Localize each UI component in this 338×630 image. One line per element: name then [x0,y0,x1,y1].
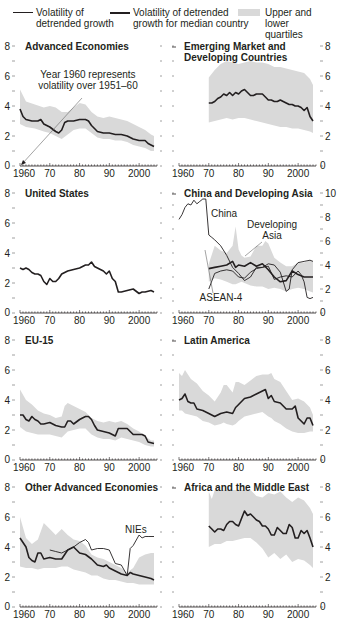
y-tick-label: 6 [325,512,331,523]
y-tick-label: 0 [320,307,326,318]
y-tick-label: 8 [325,41,331,52]
x-tick-label: 90 [104,168,116,179]
quartile-band [209,227,313,293]
y-tick-label: 2 [4,425,10,436]
y-tick-label: 4 [325,260,331,271]
y-tick-label: 6 [4,365,10,376]
y-tick-label: 4 [4,542,10,553]
x-tick-label: 80 [74,315,86,326]
x-tick-label: 1960 [172,315,195,326]
x-tick-label: 1960 [13,462,36,473]
x-tick-label: 70 [44,462,56,473]
quartile-band [20,390,154,447]
x-tick-label: 2000 [128,168,151,179]
x-tick-label: 90 [104,462,116,473]
panel-title: Latin America [184,335,250,346]
chart-panel: 1960708090200024680Latin America [172,335,331,474]
x-tick-label: 70 [203,462,215,473]
x-tick-label: 80 [233,462,245,473]
y-tick-label: 2 [325,425,331,436]
x-tick-label: 2000 [128,315,151,326]
panel-title: Africa and the Middle East [184,482,310,493]
y-tick-label: 0 [320,160,326,171]
x-tick-label: 1960 [172,609,195,620]
y-tick-label: 2 [325,572,331,583]
x-tick-label: 70 [44,168,56,179]
panel-title: Other Advanced Economies [25,482,158,493]
series-label: ASEAN-4 [200,292,243,303]
chart-panel: 1960708090200024680United States [4,188,162,327]
series-label: Developing [247,219,297,230]
x-tick-label: 90 [104,315,116,326]
x-tick-label: 70 [203,609,215,620]
panel-title: United States [25,188,89,199]
x-tick-label: 2000 [128,609,151,620]
chart-grid: 1960708090200024680Advanced EconomiesYea… [0,0,338,630]
x-tick-label: 80 [233,168,245,179]
y-tick-label: 8 [4,41,10,52]
y-tick-label: 0 [320,454,326,465]
x-tick-label: 90 [263,462,275,473]
y-tick-label: 8 [4,482,10,493]
y-tick-label: 0 [4,454,10,465]
chart-panel: 1960708090200024680Africa and the Middle… [172,482,331,621]
y-tick-label: 2 [4,278,10,289]
y-tick-label: 0 [4,160,10,171]
x-tick-label: 1960 [13,609,36,620]
y-tick-label: 4 [325,542,331,553]
y-tick-label: 6 [325,236,331,247]
x-tick-label: 2000 [287,315,310,326]
y-tick-label: 8 [325,335,331,346]
y-tick-label: 0 [320,601,326,612]
y-tick-label: 0 [4,307,10,318]
x-tick-label: 80 [74,168,86,179]
y-tick-label: 8 [325,212,331,223]
x-tick-label: 2000 [287,462,310,473]
panel-title: Advanced Economies [25,41,129,52]
series-label: NIEs [125,524,147,535]
y-tick-label: 6 [4,71,10,82]
x-tick-label: 1960 [13,315,36,326]
y-tick-label: 4 [4,101,10,112]
y-tick-label: 8 [325,482,331,493]
x-tick-label: 80 [233,315,245,326]
chart-panel: 1960708090200024680Other Advanced Econom… [4,482,162,621]
y-tick-label: 6 [325,365,331,376]
x-tick-label: 2000 [128,462,151,473]
x-tick-label: 70 [203,168,215,179]
quartile-band [179,370,313,433]
panel-title: Emerging Market and [184,41,286,52]
y-tick-label: 4 [325,101,331,112]
x-tick-label: 90 [104,609,116,620]
x-tick-label: 80 [74,609,86,620]
chart-panel: 1960708090200024680EU-15 [4,335,162,474]
annotation-text: volatility over 1951–60 [38,80,138,91]
chart-panel: 196070809020002468100China and Developin… [172,188,337,327]
chart-panel: 1960708090200024680Advanced EconomiesYea… [4,41,162,180]
x-tick-label: 1960 [172,168,195,179]
quartile-band [209,61,313,133]
x-tick-label: 80 [74,462,86,473]
y-tick-label: 2 [4,572,10,583]
x-tick-label: 1960 [172,462,195,473]
y-tick-label: 4 [4,248,10,259]
y-tick-label: 2 [4,131,10,142]
y-tick-label: 6 [4,218,10,229]
x-tick-label: 2000 [287,609,310,620]
y-tick-label: 2 [325,284,331,295]
series-line [20,262,154,294]
y-tick-label: 4 [325,395,331,406]
x-tick-label: 90 [263,168,275,179]
x-tick-label: 70 [44,315,56,326]
series-label: China [211,208,238,219]
y-tick-label: 8 [4,188,10,199]
y-tick-label: 10 [325,188,337,199]
x-tick-label: 2000 [287,168,310,179]
chart-panel: 1960708090200024680Emerging Market andDe… [172,41,331,180]
x-tick-label: 1960 [13,168,36,179]
y-tick-label: 6 [4,512,10,523]
y-tick-label: 6 [325,71,331,82]
y-tick-label: 0 [4,601,10,612]
series-label: Asia [262,230,282,241]
panel-title: China and Developing Asia [184,188,313,199]
